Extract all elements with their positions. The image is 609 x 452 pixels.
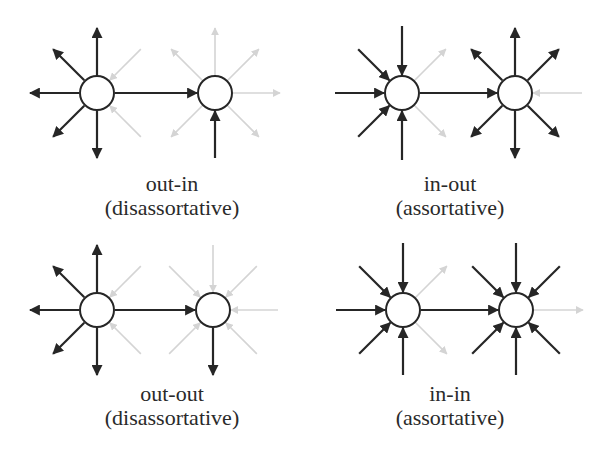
ghost-in-edge-arrow (226, 323, 257, 354)
panel-label-in-in: in-in (assortative) (396, 382, 505, 430)
ghost-out-edge-arrow (171, 49, 202, 80)
in-edge-arrow (529, 323, 560, 354)
target-node-circle (499, 293, 533, 327)
ghost-out-edge-arrow (416, 266, 447, 297)
ghost-out-edge-arrow (228, 49, 259, 80)
target-node-circle (196, 293, 230, 327)
source-node-circle (386, 293, 420, 327)
ghost-in-edge-arrow (110, 49, 141, 80)
target-node-circle (498, 76, 532, 110)
out-edge-arrow (528, 106, 559, 137)
in-edge-arrow (472, 266, 503, 297)
panel-subtitle: (assortative) (396, 196, 505, 220)
in-edge-arrow (529, 266, 560, 297)
in-edge-arrow (358, 106, 389, 137)
ghost-in-edge-arrow (226, 266, 257, 297)
panel-label-in-out: in-out (assortative) (396, 172, 505, 220)
source-node-circle (80, 76, 114, 110)
out-edge-arrow (53, 49, 84, 80)
panel-title: in-in (396, 382, 505, 406)
panel-title: in-out (396, 172, 505, 196)
panel-title: out-in (105, 172, 239, 196)
ghost-out-edge-arrow (415, 106, 446, 137)
in-edge-arrow (358, 49, 389, 80)
out-edge-arrow (53, 266, 84, 297)
out-edge-arrow (53, 106, 84, 137)
in-edge-arrow (359, 323, 390, 354)
out-edge-arrow (53, 323, 84, 354)
panel-title: out-out (105, 382, 239, 406)
panel-label-out-in: out-in (disassortative) (105, 172, 239, 220)
ghost-in-edge-arrow (169, 323, 200, 354)
ghost-in-edge-arrow (169, 266, 200, 297)
in-edge-arrow (359, 266, 390, 297)
ghost-out-edge-arrow (416, 323, 447, 354)
ghost-out-edge-arrow (228, 106, 259, 137)
panel-out-in-ghost (110, 28, 280, 137)
target-node-circle (198, 76, 232, 110)
out-edge-arrow (528, 49, 559, 80)
ghost-in-edge-arrow (110, 266, 141, 297)
out-edge-arrow (471, 106, 502, 137)
ghost-in-edge-arrow (110, 323, 141, 354)
panel-subtitle: (disassortative) (105, 196, 239, 220)
ghost-out-edge-arrow (415, 49, 446, 80)
source-node-circle (385, 76, 419, 110)
ghost-out-edge-arrow (171, 106, 202, 137)
panel-out-out-edges (30, 245, 213, 375)
panel-label-out-out: out-out (disassortative) (105, 382, 239, 430)
ghost-in-edge-arrow (110, 106, 141, 137)
in-edge-arrow (472, 323, 503, 354)
panel-out-out-ghost (110, 245, 278, 354)
assortativity-diagram (0, 0, 609, 452)
panel-subtitle: (assortative) (396, 406, 505, 430)
panel-subtitle: (disassortative) (105, 406, 239, 430)
source-node-circle (80, 293, 114, 327)
panel-out-in-edges (30, 28, 215, 158)
out-edge-arrow (471, 49, 502, 80)
